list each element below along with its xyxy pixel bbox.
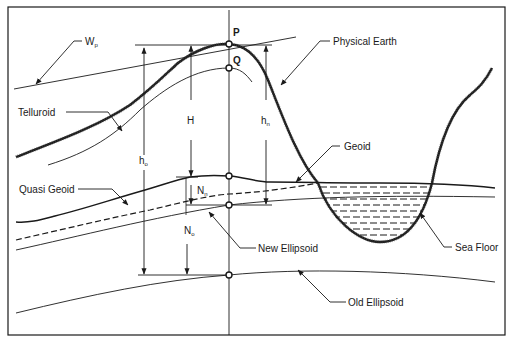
point-p-label: P bbox=[233, 27, 240, 38]
old-ellipsoid-curve bbox=[16, 271, 495, 313]
new-ellipsoid-label: New Ellipsoid bbox=[258, 243, 318, 254]
sea-floor-leader bbox=[420, 213, 452, 247]
new-ellipsoid-leader bbox=[209, 212, 256, 248]
old-ellipsoid-leader bbox=[298, 270, 346, 302]
point-q-marker bbox=[226, 65, 232, 71]
old-ellipsoid-label: Old Ellipsoid bbox=[348, 297, 404, 308]
geoid-leader bbox=[296, 146, 340, 182]
point-q-label: Q bbox=[233, 55, 241, 66]
geodesy-diagram: Wp Physical Earth Telluroid Geoid Quasi … bbox=[0, 0, 516, 347]
quasi-geoid-label: Quasi Geoid bbox=[19, 184, 75, 195]
geoid-point-marker bbox=[226, 173, 232, 179]
new-ellipsoid-point-marker bbox=[226, 202, 232, 208]
physical-earth-label: Physical Earth bbox=[333, 36, 397, 47]
h-label: H bbox=[187, 115, 194, 126]
telluroid-curve bbox=[48, 68, 252, 165]
physical-earth-surface bbox=[16, 44, 492, 242]
telluroid-label: Telluroid bbox=[18, 107, 55, 118]
hn-label: hn bbox=[261, 115, 270, 127]
geoid-label: Geoid bbox=[344, 141, 371, 152]
physical-earth-leader bbox=[281, 41, 330, 85]
ho-label: ho bbox=[139, 155, 149, 167]
diagram-frame bbox=[8, 7, 505, 335]
nn-label: Nn bbox=[197, 185, 208, 197]
sea-floor-label: Sea Floor bbox=[455, 242, 499, 253]
no-label: No bbox=[184, 225, 195, 237]
point-p-marker bbox=[226, 41, 232, 47]
old-ellipsoid-point-marker bbox=[226, 272, 232, 278]
wp-label: Wp bbox=[85, 36, 98, 48]
